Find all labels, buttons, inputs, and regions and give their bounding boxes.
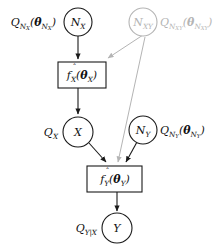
function-box-f-y[interactable]: fY(θY) ˆ — [87, 166, 142, 192]
label-q-y-given-x: QY|X — [76, 222, 98, 237]
causal-graph: NX NXY fX(θX) ˆ X NY fY(θY) ˆ — [0, 0, 222, 250]
node-n-x[interactable]: NX — [64, 8, 92, 36]
label-q-ny: QNY(θNY) — [160, 124, 205, 139]
label-q-nxy: QNXY(θNXY) — [160, 16, 212, 31]
diagram-canvas: NX NXY fX(θX) ˆ X NY fY(θY) ˆ — [0, 0, 222, 250]
function-box-f-y-hat: ˆ — [106, 167, 110, 176]
function-box-f-x-hat: ˆ — [73, 63, 77, 72]
label-q-nx: QNX(θNX) — [11, 16, 56, 31]
function-box-f-x-label: fX(θX) — [66, 69, 97, 84]
node-n-xy[interactable]: NXY — [129, 8, 157, 36]
function-box-f-y-label: fY(θY) — [99, 173, 130, 188]
node-n-y[interactable]: NY — [129, 116, 157, 144]
edge-x-to-fy — [89, 143, 106, 162]
node-x[interactable]: X — [63, 117, 93, 147]
function-box-f-x[interactable]: fX(θX) ˆ — [58, 62, 106, 88]
edge-nxy-to-fx — [108, 35, 143, 58]
node-y[interactable]: Y — [102, 213, 132, 243]
edge-ny-to-fy — [126, 142, 137, 162]
node-x-label: X — [73, 126, 83, 139]
label-q-x: QX — [44, 126, 59, 141]
